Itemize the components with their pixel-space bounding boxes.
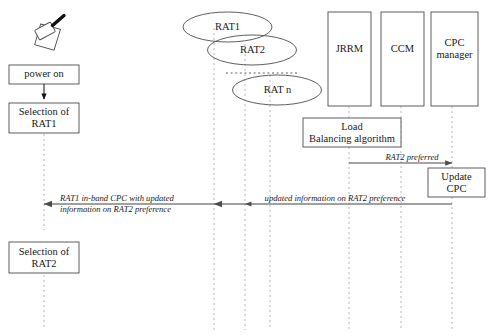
- box-ccm: [381, 12, 424, 106]
- box-power-on-label: power on: [9, 68, 79, 80]
- box-jrrm: [328, 12, 371, 106]
- box-update-cpc-label: Update CPC: [428, 171, 485, 195]
- message-label-rat1-in-band-cpc: RAT1 in-band CPC with updated informatio…: [60, 193, 210, 214]
- ellipse-rat1-label: RAT1: [183, 21, 272, 33]
- box-selection-rat1-label: Selection of RAT1: [9, 106, 79, 130]
- box-jrrm-label: JRRM: [328, 43, 371, 55]
- ellipse-rat2-label: RAT2: [208, 44, 297, 56]
- mobile-phone-icon: [27, 16, 67, 58]
- message-label-updated-information: updated information on RAT2 preference: [246, 193, 424, 204]
- box-cpc-manager-label: CPC manager: [431, 37, 478, 61]
- message-label-rat2-preferred: RAT2 preferred: [366, 152, 458, 163]
- box-ccm-label: CCM: [381, 43, 424, 55]
- box-load-balancing-label: Load Balancing algorithm: [303, 121, 401, 145]
- sequence-diagram-canvas: power on Selection of RAT1 Selection of …: [0, 0, 491, 335]
- box-selection-rat2-label: Selection of RAT2: [9, 246, 79, 270]
- ellipse-ratn-label: RAT n: [233, 84, 322, 96]
